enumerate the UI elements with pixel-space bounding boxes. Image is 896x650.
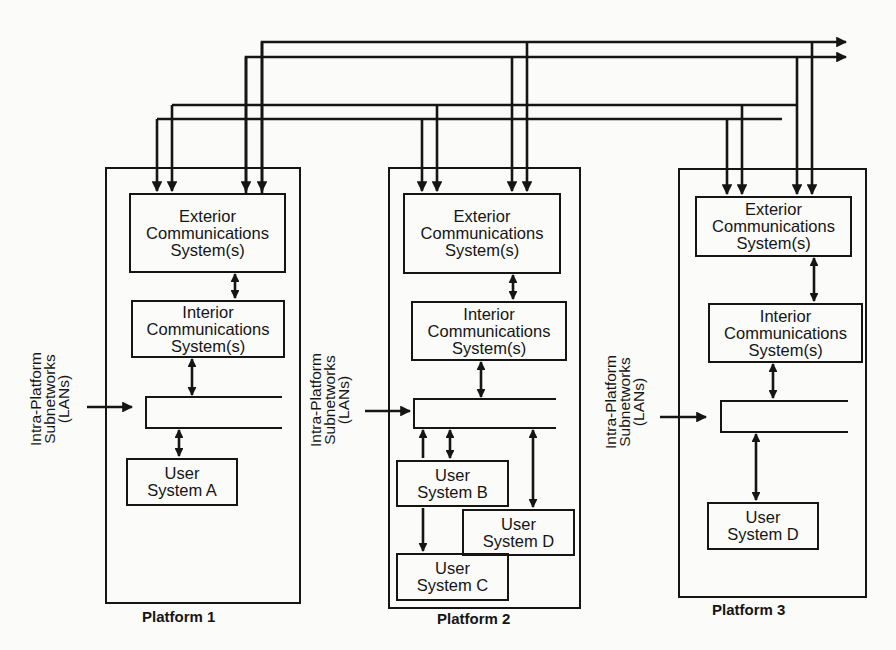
platform-2-subnet-label: Intra-Platform Subnetworks (LANs) [309,345,351,455]
platform-1-exterior-comms: Exterior Communications System(s) [129,193,286,273]
platform-3-lan-bus [720,400,848,433]
component-label: Communications [712,218,835,235]
platform-2-user-system-d: User System D [462,509,575,556]
component-label: System(s) [445,242,519,259]
component-label: System D [727,526,799,543]
platform-2-user-system-b: User System B [396,460,509,507]
component-label: User [746,509,781,526]
component-label: Communications [724,325,847,342]
platform-1-user-system-a: User System A [126,458,238,506]
component-label: Communications [428,323,551,340]
component-label: Exterior [179,208,236,225]
component-label: User [501,516,536,533]
component-label: System D [483,533,555,550]
component-label: User [435,467,470,484]
component-label: Exterior [454,208,511,225]
platform-1-lan-bus [145,396,282,429]
component-label: User [435,560,470,577]
component-label: System C [417,577,489,594]
platform-2-label: Platform 2 [437,610,510,627]
component-label: Communications [146,225,269,242]
component-label: User [165,465,200,482]
component-label: Interior [760,308,811,325]
platform-3-user-system-d: User System D [707,502,819,550]
platform-3-subnet-label: Intra-Platform Subnetworks (LANs) [604,347,646,457]
component-label: System(s) [171,338,245,355]
component-label: Communications [421,225,544,242]
component-label: System(s) [170,242,244,259]
platform-3-exterior-comms: Exterior Communications System(s) [695,196,852,257]
component-label: Interior [463,306,514,323]
platform-1-subnet-label: Intra-Platform Subnetworks (LANs) [29,344,71,454]
platform-1-label: Platform 1 [142,608,215,625]
platform-2-exterior-comms: Exterior Communications System(s) [403,193,561,274]
component-label: System A [147,482,217,499]
platform-2-lan-bus [413,398,556,429]
component-label: System(s) [452,340,526,357]
platform-3-label: Platform 3 [712,601,785,618]
platform-3-interior-comms: Interior Communications System(s) [708,303,863,363]
platform-2-interior-comms: Interior Communications System(s) [411,301,567,361]
component-label: Communications [147,321,270,338]
component-label: Exterior [745,201,802,218]
platform-1-interior-comms: Interior Communications System(s) [131,300,285,358]
component-label: System(s) [736,235,810,252]
component-label: System B [417,484,488,501]
platform-2-user-system-c: User System C [396,553,509,601]
component-label: Interior [182,304,233,321]
component-label: System(s) [748,342,822,359]
